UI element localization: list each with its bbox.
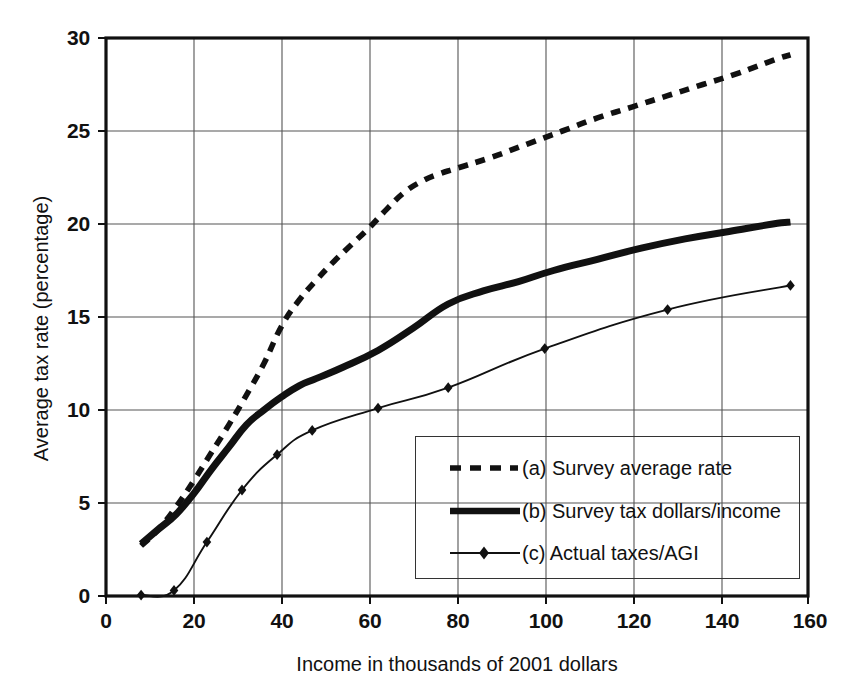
data-point-marker (444, 382, 453, 393)
data-point-marker (540, 343, 549, 354)
legend-swatch-diamond-line-icon (448, 539, 520, 567)
chart-figure: Average tax rate (percentage) Income in … (0, 0, 853, 696)
legend-label-b: (b) Survey tax dollars/income (522, 500, 781, 523)
data-point-marker (663, 304, 672, 315)
legend-item-b: (b) Survey tax dollars/income (416, 491, 801, 531)
legend-swatch-dashed-line-icon (448, 454, 520, 482)
legend-item-a: (a) Survey average rate (416, 448, 801, 488)
data-point-marker (786, 280, 795, 291)
legend-label-a: (a) Survey average rate (522, 457, 732, 480)
data-point-marker (374, 403, 383, 414)
plot-area (0, 0, 853, 696)
data-point-marker (308, 425, 317, 436)
chart-legend: (a) Survey average rate (b) Survey tax d… (415, 436, 800, 579)
legend-swatch-thick-line-icon (448, 497, 520, 525)
legend-label-c: (c) Actual taxes/AGI (522, 542, 699, 565)
legend-item-c: (c) Actual taxes/AGI (416, 533, 801, 573)
